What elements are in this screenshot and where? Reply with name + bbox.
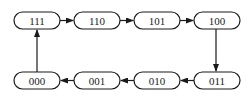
state-label: 110 [89,15,106,27]
state-label: 010 [149,75,166,87]
state-diagram: 111 110 101 100 011 010 001 000 [0,0,251,98]
state-100: 100 [194,12,240,29]
state-label: 001 [89,75,106,87]
state-label: 100 [209,15,226,27]
state-111: 111 [14,12,60,29]
state-label: 101 [149,15,166,27]
state-000: 000 [14,72,60,89]
state-label: 000 [29,75,46,87]
state-label: 111 [29,15,45,27]
state-001: 001 [74,72,120,89]
state-010: 010 [134,72,180,89]
state-011: 011 [194,72,240,89]
state-110: 110 [74,12,120,29]
state-label: 011 [209,75,225,87]
state-101: 101 [134,12,180,29]
